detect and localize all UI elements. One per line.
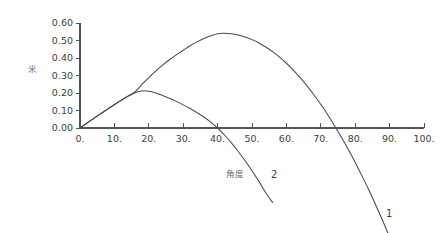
y-tick-label: 0.50 bbox=[52, 35, 73, 46]
x-tick-label: 80. bbox=[348, 133, 363, 144]
x-tick-label: 40. bbox=[210, 133, 225, 144]
x-tick-label: 60. bbox=[279, 133, 294, 144]
y-tick-label: 0.00 bbox=[52, 122, 73, 133]
x-tick-label: 10. bbox=[107, 133, 122, 144]
x-tick-label: 90. bbox=[382, 133, 397, 144]
series-label-1: 1 bbox=[386, 208, 392, 219]
line-chart: 0.000.100.200.300.400.500.60 0.10.20.30.… bbox=[0, 0, 447, 233]
x-axis-tick-labels: 0.10.20.30.40.50.60.70.80.90.100. bbox=[75, 133, 434, 144]
y-tick-label: 0.20 bbox=[52, 87, 73, 98]
y-tick-label: 0.40 bbox=[52, 52, 73, 63]
y-axis-ticks bbox=[76, 23, 80, 128]
x-tick-label: 30. bbox=[176, 133, 191, 144]
y-tick-label: 0.30 bbox=[52, 70, 73, 81]
x-axis-title: 角度 bbox=[226, 169, 244, 179]
x-tick-label: 50. bbox=[244, 133, 259, 144]
series-line-2 bbox=[80, 91, 273, 203]
series-label-2: 2 bbox=[271, 169, 277, 180]
x-tick-label: 100. bbox=[413, 133, 434, 144]
chart-container: 0.000.100.200.300.400.500.60 0.10.20.30.… bbox=[0, 0, 447, 233]
y-tick-label: 0.10 bbox=[52, 105, 73, 116]
y-axis-title: 米 bbox=[28, 64, 37, 74]
y-tick-label: 0.60 bbox=[52, 17, 73, 28]
y-axis-tick-labels: 0.000.100.200.300.400.500.60 bbox=[52, 17, 73, 133]
x-tick-label: 70. bbox=[313, 133, 328, 144]
x-axis-ticks bbox=[80, 123, 424, 128]
x-tick-label: 20. bbox=[141, 133, 156, 144]
x-tick-label: 0. bbox=[75, 133, 84, 144]
